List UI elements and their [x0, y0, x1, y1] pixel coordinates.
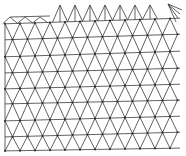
mesh-node [147, 100, 149, 102]
mesh-edge [13, 40, 21, 57]
mesh-node [162, 68, 164, 70]
mesh-node [154, 18, 156, 20]
mesh-node [94, 53, 96, 55]
mesh-edge [95, 70, 103, 86]
mesh-node [34, 87, 36, 89]
mesh-edge [170, 52, 178, 69]
mesh-edge [65, 55, 73, 71]
mesh-edge [73, 135, 81, 150]
mesh-edge [73, 119, 81, 135]
mesh-edge [88, 135, 96, 150]
mesh-edge [170, 116, 178, 132]
mesh-edge [43, 103, 51, 120]
mesh-edge [73, 87, 81, 103]
mesh-edge [68, 5, 76, 22]
mesh-edge [120, 5, 128, 20]
mesh-edge [135, 5, 143, 19]
mesh-node [124, 148, 126, 150]
mesh-edge [155, 117, 163, 133]
mesh-node [57, 135, 59, 137]
mesh-edge [50, 120, 58, 136]
mesh-edge [50, 22, 58, 38]
mesh-edge [88, 21, 96, 37]
mesh-edge [5, 24, 13, 40]
mesh-edge [90, 5, 98, 21]
mesh-edge [5, 132, 180, 137]
mesh-edge [133, 69, 141, 85]
mesh-edge [58, 119, 66, 135]
mesh-edge [110, 134, 118, 149]
mesh-edge [155, 101, 163, 117]
mesh-edge [43, 120, 51, 136]
mesh-node [19, 55, 21, 57]
mesh-edge [5, 148, 180, 151]
mesh-edge [155, 52, 163, 69]
mesh-edge [140, 101, 148, 117]
mesh-edge [110, 70, 118, 86]
mesh-edge [43, 39, 51, 56]
mesh-node [94, 149, 96, 151]
mesh-edge [5, 137, 13, 151]
mesh-edge [163, 84, 171, 100]
mesh-node [87, 101, 89, 103]
mesh-edge [40, 17, 48, 23]
mesh-edge [25, 17, 33, 23]
mesh-edge [170, 34, 178, 51]
mesh-edge [170, 132, 178, 148]
mesh-node [64, 118, 66, 120]
mesh-edge [65, 38, 73, 55]
mesh-edge [80, 54, 88, 70]
mesh-edge [88, 54, 96, 71]
mesh-node [49, 119, 51, 121]
mesh-node [12, 72, 14, 74]
mesh-edge [140, 53, 148, 70]
mesh-edge [28, 103, 36, 120]
mesh-edge [35, 56, 43, 72]
mesh-node [147, 132, 149, 134]
mesh-node [177, 99, 179, 101]
mesh-edge [143, 5, 151, 19]
mesh-edge [35, 136, 43, 151]
mesh-node [117, 133, 119, 135]
mesh-edge [35, 72, 43, 88]
mesh-node [79, 20, 81, 22]
mesh-edge [125, 69, 133, 85]
mesh-edge [50, 38, 58, 55]
mesh-node [139, 84, 141, 86]
mesh-edge [95, 134, 103, 149]
mesh-node [72, 134, 74, 136]
mesh-edge [103, 134, 111, 149]
mesh-edge [80, 135, 88, 150]
mesh-edge [5, 40, 13, 57]
mesh-node [109, 117, 111, 119]
mesh-edge [118, 53, 126, 70]
mesh-edge [28, 39, 36, 56]
mesh-edge [5, 68, 180, 73]
mesh-edge [58, 103, 66, 120]
mesh-edge [28, 72, 36, 88]
mesh-edge [28, 136, 36, 150]
mesh-edge [20, 136, 28, 150]
mesh-edge [58, 38, 66, 55]
mesh-node [12, 136, 14, 138]
mesh-edge [118, 134, 126, 149]
mesh-node [64, 21, 66, 23]
mesh-node [177, 33, 179, 35]
mesh-edge [125, 20, 133, 36]
mesh-edge [118, 20, 126, 36]
mesh-edge [148, 133, 156, 149]
mesh-node [64, 54, 66, 56]
mesh-edge [20, 72, 28, 88]
mesh-edge [88, 86, 96, 102]
mesh-edge [125, 101, 133, 117]
mesh-edge [125, 36, 133, 53]
mesh-edge [155, 19, 163, 35]
mesh-edge [80, 71, 88, 87]
mesh-edge [88, 102, 96, 118]
mesh-edge [13, 121, 21, 137]
mesh-edge [155, 35, 163, 52]
mesh-edge [43, 88, 51, 103]
mesh-edge [28, 56, 36, 72]
mesh-edge [163, 133, 171, 149]
mesh-node [34, 22, 36, 24]
